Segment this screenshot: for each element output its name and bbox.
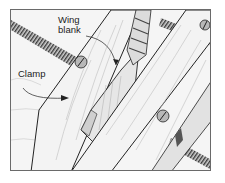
clamp-label: Clamp: [18, 69, 45, 79]
illustration-frame: Wing blank Clamp: [10, 9, 211, 171]
woodworking-illustration: [11, 10, 211, 171]
screw-upper: [75, 56, 87, 68]
screw-lower: [157, 110, 169, 122]
wing-blank-label: Wing blank: [58, 15, 81, 35]
wing-label-line2: blank: [58, 25, 81, 35]
screw-top-right: [200, 20, 210, 30]
